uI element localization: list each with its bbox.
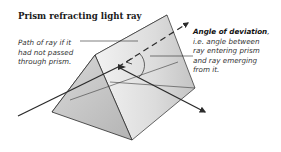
prism-diagram (0, 0, 281, 152)
